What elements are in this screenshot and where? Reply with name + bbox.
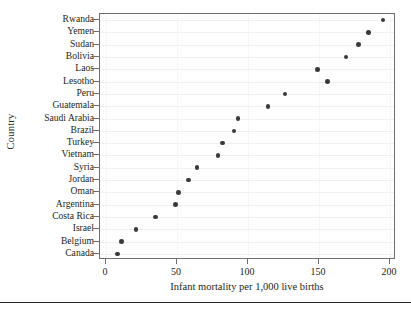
y-axis-tick-label: Belgium	[20, 236, 94, 246]
plot-area	[99, 13, 395, 259]
x-axis-tick	[318, 259, 319, 264]
y-axis-tick	[93, 204, 99, 205]
y-axis-tick-label: Sudan	[20, 39, 94, 49]
y-axis-title-text: Country	[6, 113, 17, 149]
y-axis-tick-label: Turkey	[20, 137, 94, 147]
y-axis-tick-label: Syria	[20, 162, 94, 172]
gridline	[100, 119, 394, 120]
data-point	[266, 104, 271, 109]
data-point	[381, 18, 386, 23]
data-point	[325, 79, 330, 84]
gridline	[100, 20, 394, 21]
x-axis-tick-label: 150	[298, 266, 338, 277]
y-axis-tick-label: Lesotho	[20, 76, 94, 86]
data-point	[176, 190, 181, 195]
gridline	[100, 32, 394, 33]
y-axis-tick-label: Guatemala	[20, 100, 94, 110]
y-axis-tick	[93, 81, 99, 82]
y-axis-tick-label: Canada	[20, 248, 94, 258]
data-point	[366, 30, 371, 35]
data-point	[186, 178, 191, 183]
y-axis-tick	[93, 56, 99, 57]
y-axis-tick-label: Bolivia	[20, 51, 94, 61]
y-axis-tick	[93, 228, 99, 229]
x-axis-tick-label: 100	[227, 266, 267, 277]
gridline	[100, 69, 394, 70]
y-axis-tick	[93, 19, 99, 20]
vertical-gridline	[177, 14, 178, 258]
gridline	[100, 254, 394, 255]
gridline	[100, 106, 394, 107]
data-point	[344, 55, 349, 60]
y-axis-tick-label: Rwanda	[20, 14, 94, 24]
x-axis-title: Infant mortality per 1,000 live births	[99, 281, 395, 292]
data-point	[356, 42, 361, 47]
y-axis-tick-label: Peru	[20, 88, 94, 98]
data-point	[283, 92, 288, 97]
y-axis-tick-label: Brazil	[20, 125, 94, 135]
data-point	[220, 141, 225, 146]
gridline	[100, 168, 394, 169]
y-axis-tick-label: Argentina	[20, 199, 94, 209]
vertical-gridline	[106, 14, 107, 258]
y-axis-tick	[93, 93, 99, 94]
y-axis-tick-label: Costa Rica	[20, 211, 94, 221]
x-axis-tick	[247, 259, 248, 264]
x-axis-tick	[105, 259, 106, 264]
gridline	[100, 217, 394, 218]
y-axis-tick	[93, 167, 99, 168]
gridline	[100, 192, 394, 193]
y-axis-tick	[93, 105, 99, 106]
gridline	[100, 242, 394, 243]
data-point	[115, 252, 120, 257]
data-point	[315, 67, 320, 72]
gridline	[100, 229, 394, 230]
data-point	[134, 227, 139, 232]
x-axis-tick	[176, 259, 177, 264]
y-axis-tick	[93, 118, 99, 119]
x-axis-tick-label: 50	[156, 266, 196, 277]
y-axis-tick	[93, 216, 99, 217]
data-point	[236, 116, 241, 121]
y-axis-tick	[93, 154, 99, 155]
gridline	[100, 143, 394, 144]
vertical-gridline	[390, 14, 391, 258]
gridline	[100, 155, 394, 156]
gridline	[100, 94, 394, 95]
y-axis-tick	[93, 241, 99, 242]
gridline	[100, 45, 394, 46]
y-axis-tick	[93, 68, 99, 69]
y-axis-title: Country	[2, 0, 20, 262]
gridline	[100, 57, 394, 58]
data-point	[173, 202, 178, 207]
gridline	[100, 205, 394, 206]
y-axis-tick-label: Yemen	[20, 26, 94, 36]
data-point	[195, 165, 200, 170]
y-axis-tick-label: Vietnam	[20, 149, 94, 159]
vertical-gridline	[319, 14, 320, 258]
gridline	[100, 82, 394, 83]
x-axis-tick-label: 0	[85, 266, 125, 277]
y-axis-tick-labels: RwandaYemenSudanBoliviaLaosLesothoPeruGu…	[20, 12, 94, 260]
y-axis-tick	[93, 142, 99, 143]
y-axis-tick-label: Israel	[20, 223, 94, 233]
gridline	[100, 131, 394, 132]
y-axis-tick	[93, 31, 99, 32]
vertical-gridline	[248, 14, 249, 258]
y-axis-tick-label: Saudi Arabia	[20, 113, 94, 123]
infant-mortality-dot-chart: Country RwandaYemenSudanBoliviaLaosLesot…	[0, 0, 411, 311]
y-axis-tick	[93, 44, 99, 45]
data-point	[232, 129, 237, 134]
gridline	[100, 180, 394, 181]
y-axis-tick	[93, 191, 99, 192]
data-point	[119, 239, 124, 244]
data-point	[153, 215, 158, 220]
y-axis-tick	[93, 130, 99, 131]
y-axis-tick-label: Jordan	[20, 174, 94, 184]
x-axis-tick-label: 200	[369, 266, 409, 277]
data-point	[216, 153, 221, 158]
y-axis-tick	[93, 179, 99, 180]
x-axis-tick	[389, 259, 390, 264]
y-axis-tick-label: Laos	[20, 63, 94, 73]
y-axis-tick-label: Oman	[20, 186, 94, 196]
